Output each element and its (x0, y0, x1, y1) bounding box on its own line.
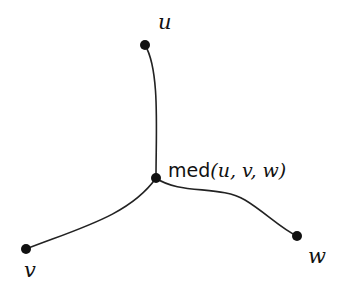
node-u (140, 40, 150, 50)
edge-med-u (145, 45, 156, 178)
label-v: v (24, 260, 36, 281)
node-w (292, 231, 302, 241)
median-tree-diagram: u v w med(u, v, w) (0, 0, 346, 291)
diagram-svg (0, 0, 346, 291)
median-function: med (168, 159, 210, 181)
node-v (21, 244, 31, 254)
median-args: (u, v, w) (210, 159, 286, 181)
label-u: u (158, 12, 172, 33)
label-median: med(u, v, w) (168, 160, 286, 181)
edge-med-v (26, 178, 156, 249)
edge-med-w (156, 178, 297, 236)
node-median (151, 173, 161, 183)
label-w: w (308, 246, 326, 267)
